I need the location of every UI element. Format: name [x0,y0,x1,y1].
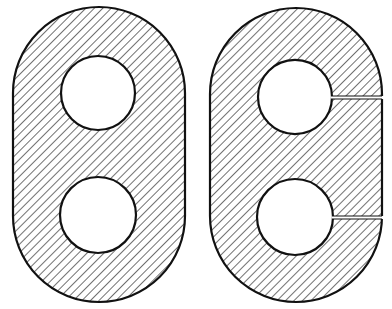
plate-body [210,8,382,302]
plates-figure [0,0,392,309]
plate-body [13,7,185,302]
plates-layer [13,7,384,302]
diagram-canvas [0,0,392,309]
left-plate [13,7,185,302]
right-plate [210,8,384,302]
